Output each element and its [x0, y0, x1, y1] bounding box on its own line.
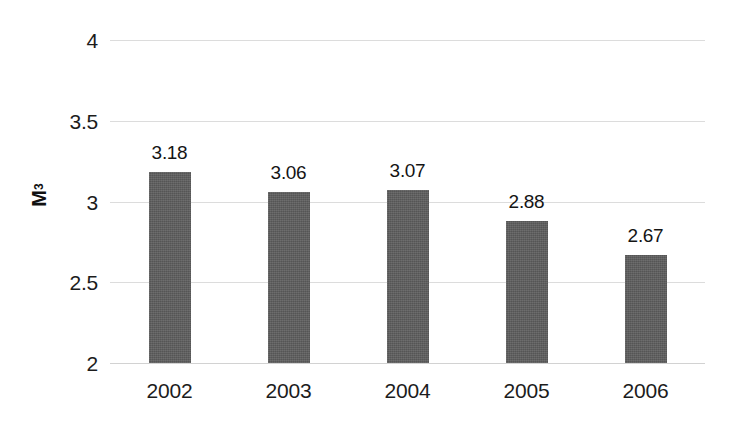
- y-axis-tick-label: 4: [87, 30, 98, 51]
- x-axis-tick-labels: 20022003200420052006: [110, 380, 705, 410]
- y-axis-tick-labels: 22.533.54: [40, 40, 98, 363]
- y-axis-tick-label: 3.5: [69, 110, 98, 131]
- bar-value-label: 3.07: [390, 161, 426, 180]
- bar-value-label: 2.67: [628, 226, 664, 245]
- bar-slot: 3.18: [110, 40, 229, 363]
- bar-slot: 2.88: [467, 40, 586, 363]
- bar-slot: 3.07: [348, 40, 467, 363]
- x-axis-tick-label: 2004: [385, 380, 431, 401]
- x-axis-tick-label: 2005: [504, 380, 550, 401]
- bar[interactable]: [149, 172, 191, 363]
- bar-slot: 2.67: [586, 40, 705, 363]
- bar[interactable]: [625, 255, 667, 363]
- bar-value-label: 3.06: [271, 163, 307, 182]
- x-axis-tick-label: 2003: [266, 380, 312, 401]
- plot-area: 3.183.063.072.882.67: [110, 40, 705, 363]
- x-axis-tick-label: 2006: [623, 380, 669, 401]
- y-axis-tick-label: 3: [87, 191, 98, 212]
- x-axis-tick-label: 2002: [147, 380, 193, 401]
- bar-chart: M3 22.533.54 3.183.063.072.882.67 200220…: [0, 0, 733, 439]
- bar-value-label: 2.88: [509, 192, 545, 211]
- bar[interactable]: [387, 190, 429, 363]
- bar[interactable]: [506, 221, 548, 363]
- y-axis-tick-label: 2: [87, 353, 98, 374]
- gridline-2: [110, 363, 705, 364]
- bar-value-label: 3.18: [152, 143, 188, 162]
- bar[interactable]: [268, 192, 310, 363]
- y-axis-tick-label: 2.5: [69, 272, 98, 293]
- bar-slot: 3.06: [229, 40, 348, 363]
